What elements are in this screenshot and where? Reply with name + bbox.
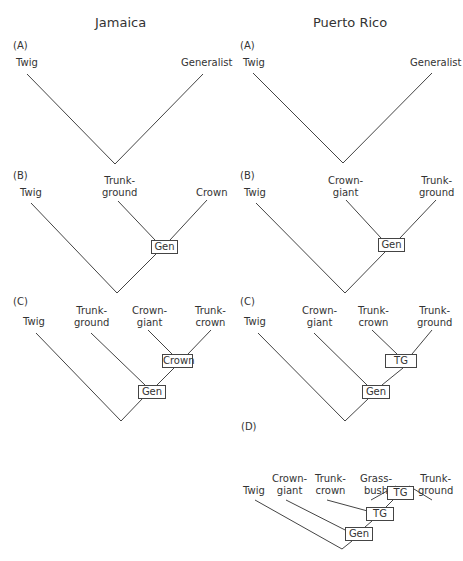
node-tg: TG bbox=[385, 354, 417, 368]
node-crown: Crown bbox=[162, 354, 193, 368]
leaf-twig: Twig bbox=[244, 316, 266, 328]
node-tg: TG bbox=[387, 486, 414, 500]
node-gen: Gen bbox=[345, 527, 373, 541]
jamaica-title: Jamaica bbox=[95, 15, 146, 30]
leaf-trunk-ground: Trunk-ground bbox=[74, 305, 109, 329]
panel-label-pr-d: (D) bbox=[241, 421, 257, 432]
leaf-twig: Twig bbox=[244, 187, 266, 199]
leaf-crown-giant: Crown-giant bbox=[328, 175, 363, 199]
puerto-rico-title: Puerto Rico bbox=[313, 15, 387, 30]
node-gen: Gen bbox=[138, 385, 166, 399]
leaf-twig: Twig bbox=[243, 485, 265, 497]
panel-label-jamaica-a: (A) bbox=[13, 40, 28, 51]
leaf-crown-giant: Crown-giant bbox=[132, 305, 167, 329]
leaf-crown-giant: Crown-giant bbox=[272, 473, 307, 497]
leaf-trunk-crown: Trunk-crown bbox=[315, 473, 346, 497]
leaf-twig: Twig bbox=[243, 57, 265, 69]
leaf-trunk-crown: Trunk-crown bbox=[358, 305, 389, 329]
node-gen: Gen bbox=[378, 238, 405, 252]
leaf-crown: Crown bbox=[196, 187, 228, 199]
panel-label-pr-a: (A) bbox=[240, 40, 255, 51]
leaf-generalist: Generalist bbox=[410, 57, 461, 69]
node-gen: Gen bbox=[151, 240, 178, 254]
leaf-twig: Twig bbox=[16, 57, 38, 69]
leaf-twig: Twig bbox=[23, 316, 45, 328]
leaf-generalist: Generalist bbox=[181, 57, 232, 69]
node-tg: TG bbox=[366, 507, 394, 521]
leaf-trunk-crown: Trunk-crown bbox=[195, 305, 226, 329]
leaf-twig: Twig bbox=[20, 187, 42, 199]
panel-label-jamaica-b: (B) bbox=[13, 170, 28, 181]
node-gen: Gen bbox=[362, 385, 390, 399]
panel-label-jamaica-c: (C) bbox=[13, 296, 28, 307]
leaf-trunk-ground: Trunk-ground bbox=[419, 175, 454, 199]
leaf-trunk-ground: Trunk-ground bbox=[417, 305, 452, 329]
panel-label-pr-c: (C) bbox=[240, 296, 255, 307]
phylogeny-branches bbox=[0, 0, 463, 561]
leaf-trunk-ground: Trunk-ground bbox=[102, 175, 137, 199]
leaf-crown-giant: Crown-giant bbox=[302, 305, 337, 329]
leaf-trunk-ground: Trunk-ground bbox=[418, 473, 453, 497]
panel-label-pr-b: (B) bbox=[240, 170, 255, 181]
